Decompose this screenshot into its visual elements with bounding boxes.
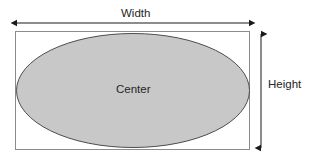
diagram-canvas: Width Height Center: [0, 0, 316, 161]
height-label: Height: [268, 79, 301, 91]
center-label: Center: [116, 84, 151, 96]
width-label: Width: [121, 8, 150, 20]
